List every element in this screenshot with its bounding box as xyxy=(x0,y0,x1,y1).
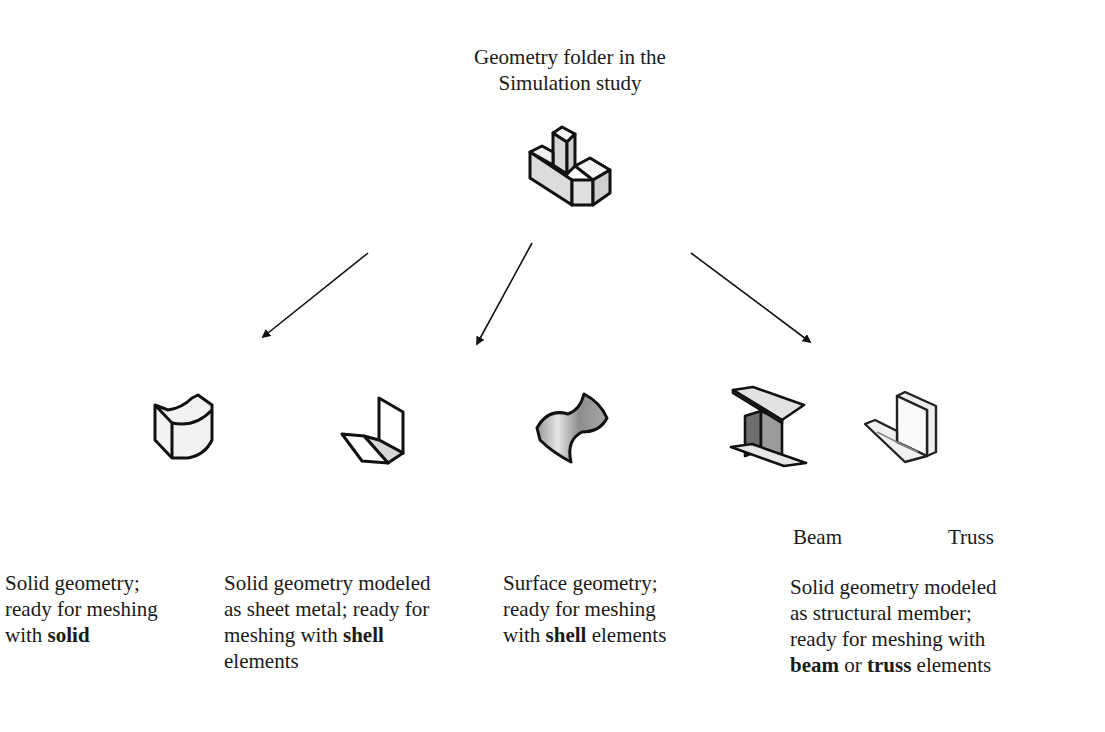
caption-emphasis: shell xyxy=(343,623,384,647)
arrow-to-structural-member xyxy=(691,253,810,342)
caption-text: with xyxy=(503,623,546,647)
caption-structural-member: Solid geometry modeledas structural memb… xyxy=(790,574,1090,678)
caption-sheet-metal: Solid geometry modeledas sheet metal; re… xyxy=(224,570,494,674)
caption-emphasis: truss xyxy=(867,653,911,677)
arrow-to-sheet-metal xyxy=(477,243,532,344)
caption-line: Solid geometry modeled xyxy=(224,570,494,596)
arrows xyxy=(263,243,810,344)
caption-emphasis: solid xyxy=(48,623,90,647)
sheet-metal-icon xyxy=(342,398,403,463)
caption-line: Solid geometry modeled xyxy=(790,574,1090,600)
beam-icon xyxy=(731,387,806,466)
geometry-folder-part-icon xyxy=(530,127,610,205)
caption-text: Surface geometry; xyxy=(503,571,658,595)
caption-text: elements xyxy=(586,623,666,647)
truss-label: Truss xyxy=(948,524,994,550)
caption-line: as sheet metal; ready for xyxy=(224,596,494,622)
caption-text: or xyxy=(839,653,867,677)
caption-text: with xyxy=(5,623,48,647)
caption-text: as sheet metal; ready for xyxy=(224,597,429,621)
caption-emphasis: beam xyxy=(790,653,839,677)
caption-text: Solid geometry modeled xyxy=(224,571,430,595)
caption-line: ready for meshing xyxy=(5,596,215,622)
caption-line: beam or truss elements xyxy=(790,652,1090,678)
caption-text: Solid geometry; xyxy=(5,571,140,595)
caption-text: ready for meshing xyxy=(5,597,158,621)
caption-text: ready for meshing xyxy=(503,597,656,621)
caption-line: ready for meshing xyxy=(503,596,743,622)
solid-body-icon xyxy=(155,395,212,458)
truss-icon xyxy=(865,392,936,462)
caption-line: ready for meshing with xyxy=(790,626,1090,652)
caption-text: ready for meshing with xyxy=(790,627,985,651)
arrow-to-solid xyxy=(263,253,368,337)
caption-text: meshing with xyxy=(224,623,343,647)
caption-line: as structural member; xyxy=(790,600,1090,626)
caption-emphasis: shell xyxy=(546,623,587,647)
caption-line: with solid xyxy=(5,622,215,648)
caption-text: elements xyxy=(224,649,299,673)
caption-line: Solid geometry; xyxy=(5,570,215,596)
caption-text: elements xyxy=(911,653,991,677)
caption-line: with shell elements xyxy=(503,622,743,648)
caption-line: elements xyxy=(224,648,494,674)
beam-label: Beam xyxy=(793,524,842,550)
caption-text: as structural member; xyxy=(790,601,972,625)
caption-solid: Solid geometry;ready for meshingwith sol… xyxy=(5,570,215,648)
surface-body-icon xyxy=(537,394,607,462)
caption-surface: Surface geometry;ready for meshingwith s… xyxy=(503,570,743,648)
caption-line: Surface geometry; xyxy=(503,570,743,596)
caption-text: Solid geometry modeled xyxy=(790,575,996,599)
caption-line: meshing with shell xyxy=(224,622,494,648)
